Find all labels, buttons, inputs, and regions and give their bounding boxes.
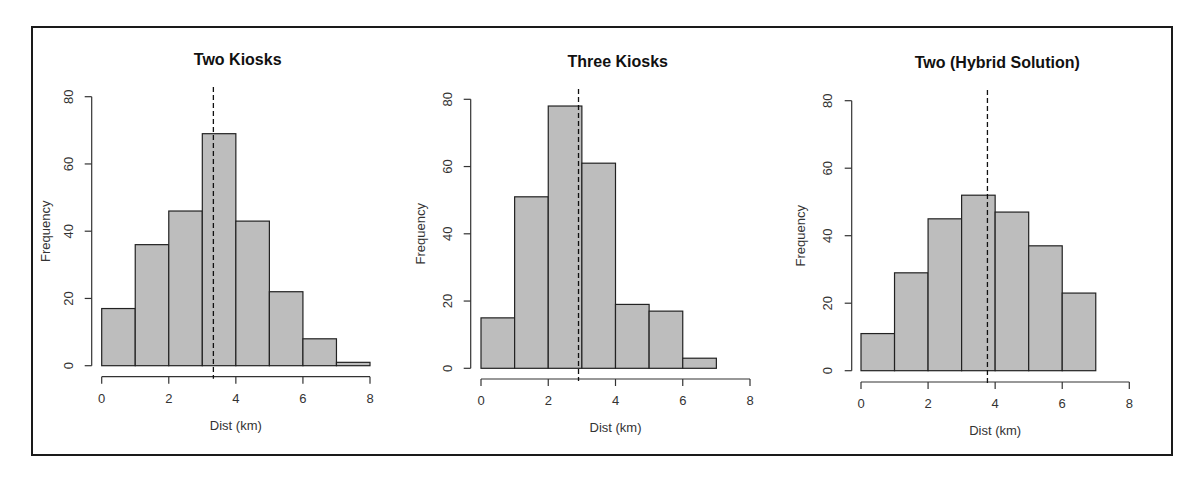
x-tick-label: 0 [857, 396, 864, 411]
x-tick-label: 4 [232, 391, 239, 406]
y-tick-label: 0 [820, 367, 835, 374]
histogram-bar [928, 219, 962, 371]
x-tick-label: 4 [992, 396, 999, 411]
x-tick-label: 0 [98, 391, 105, 406]
x-tick-label: 2 [924, 396, 931, 411]
x-tick-label: 6 [1059, 396, 1066, 411]
x-axis-label: Dist (km) [969, 423, 1021, 438]
x-tick-label: 0 [477, 393, 484, 408]
x-tick-label: 2 [165, 391, 172, 406]
x-axis-label: Dist (km) [210, 418, 262, 433]
y-tick-label: 60 [820, 161, 835, 175]
histogram-bar [481, 318, 515, 368]
histogram-bar [582, 163, 616, 368]
y-tick-label: 20 [61, 291, 76, 305]
histogram-bar [1029, 246, 1063, 371]
y-axis-label: Frequency [38, 200, 53, 262]
histogram-bar [962, 195, 996, 371]
panel-two-hybrid-solution: Two (Hybrid Solution) Dist (km) Frequenc… [793, 54, 1133, 438]
histogram-bars [102, 134, 370, 366]
x-tick-label: 6 [679, 393, 686, 408]
y-tick-label: 80 [61, 89, 76, 103]
panel-two-kiosks: Two Kiosks Dist (km) Frequency 020406080… [38, 51, 374, 433]
x-tick-label: 2 [545, 393, 552, 408]
y-axis-label: Frequency [793, 204, 808, 266]
y-tick-label: 0 [440, 365, 455, 372]
chart-title: Two Kiosks [194, 51, 282, 68]
histogram-figure: Two Kiosks Dist (km) Frequency 020406080… [0, 0, 1201, 478]
histogram-bar [303, 339, 337, 366]
y-tick-label: 0 [61, 362, 76, 369]
histogram-bar [102, 309, 136, 366]
x-tick-label: 8 [1126, 396, 1133, 411]
histogram-bar [995, 212, 1029, 371]
histogram-bar [683, 358, 717, 368]
histogram-bar [269, 292, 303, 366]
y-tick-label: 80 [820, 93, 835, 107]
y-tick-label: 20 [820, 296, 835, 310]
histogram-bar [236, 221, 270, 366]
x-tick-label: 8 [366, 391, 373, 406]
chart-title: Two (Hybrid Solution) [915, 54, 1080, 71]
histogram-bars [861, 195, 1096, 371]
histogram-bar [649, 311, 683, 368]
y-tick-label: 40 [61, 224, 76, 238]
x-tick-label: 8 [746, 393, 753, 408]
histogram-bar [895, 273, 929, 371]
panel-three-kiosks: Three Kiosks Dist (km) Frequency 0204060… [413, 53, 754, 435]
y-tick-label: 40 [440, 227, 455, 241]
x-tick-label: 4 [612, 393, 619, 408]
y-axis-label: Frequency [413, 203, 428, 265]
histogram-bar [515, 197, 549, 368]
chart-title: Three Kiosks [567, 53, 668, 70]
x-axis-label: Dist (km) [590, 420, 642, 435]
histogram-bar [1062, 293, 1096, 371]
histogram-bar [169, 211, 203, 366]
histogram-bar [548, 106, 582, 368]
y-tick-label: 60 [61, 157, 76, 171]
y-tick-label: 40 [820, 228, 835, 242]
y-tick-label: 20 [440, 294, 455, 308]
x-tick-label: 6 [299, 391, 306, 406]
histogram-bar [616, 304, 650, 368]
histogram-bar [336, 362, 370, 365]
histogram-bar [861, 334, 895, 371]
y-tick-label: 80 [440, 92, 455, 106]
histogram-bar [202, 134, 236, 366]
histogram-bar [135, 245, 169, 366]
histogram-bars [481, 106, 716, 368]
y-tick-label: 60 [440, 159, 455, 173]
